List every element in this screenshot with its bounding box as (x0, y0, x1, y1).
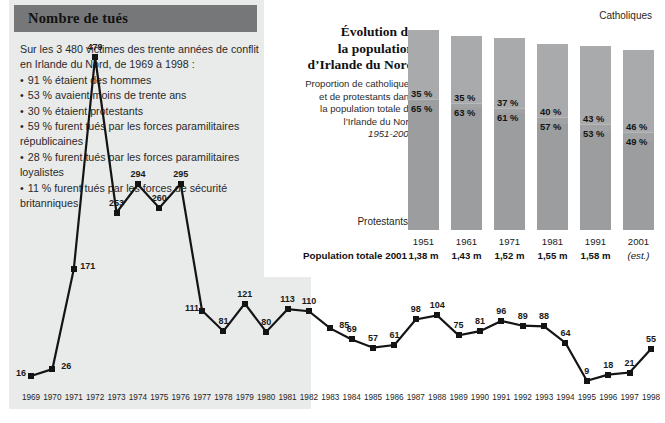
data-point-marker (477, 328, 483, 334)
deaths-bullet-4: 28 % furent tués par les forces paramili… (20, 150, 268, 181)
population-subtitle-line-1: Proportion de catholiques (268, 78, 414, 91)
population-bar-column: 35 %65 % (408, 30, 439, 230)
bar-segment-protestants (537, 124, 568, 230)
bar-label-protestants: 49 % (626, 136, 647, 147)
data-point-label: 89 (518, 311, 528, 321)
deaths-bullet-2: 30 % étaient protestants (20, 104, 268, 119)
data-point-marker (413, 316, 419, 322)
x-axis-tick-label: 1992 (514, 393, 532, 402)
x-axis-tick-label: 1984 (343, 393, 361, 402)
bar-label-protestants: 65 % (411, 103, 432, 114)
population-bar-column: 37 %61 % (494, 38, 525, 230)
population-title-line-1: Évolution de (268, 24, 414, 41)
bar-label-protestants: 63 % (454, 107, 475, 118)
stacked-bar: 43 %53 % (580, 46, 611, 230)
bar-label-catholiques: 35 % (454, 92, 475, 103)
data-point-label: 98 (411, 304, 421, 314)
data-point-label: 21 (625, 358, 635, 368)
data-point-marker (391, 342, 397, 348)
x-axis-tick-label: 1997 (621, 393, 639, 402)
data-point-marker (584, 378, 590, 384)
population-bar-column: 35 %63 % (451, 36, 482, 230)
data-point-marker (498, 318, 504, 324)
legend-catholiques: Catholiques (599, 10, 652, 21)
population-subtitle: Proportion de catholiques et de protesta… (268, 78, 414, 141)
bar-label-catholiques: 35 % (411, 88, 432, 99)
deaths-bullet-1: 53 % avaient moins de trente ans (20, 88, 268, 103)
data-point-marker (562, 340, 568, 346)
bar-label-catholiques: 37 % (497, 97, 518, 108)
bar-label-catholiques: 40 % (540, 106, 561, 117)
x-axis-tick-label: 1998 (642, 393, 660, 402)
data-point-marker (605, 372, 611, 378)
population-panel: Évolution de la population d’Irlande du … (264, 0, 660, 277)
x-axis-tick-label: 1995 (578, 393, 596, 402)
population-subtitle-years: 1951-2001 (268, 128, 414, 141)
data-point-label: 104 (430, 300, 445, 310)
data-point-marker (541, 323, 547, 329)
x-axis-tick-label: 1990 (471, 393, 489, 402)
population-subtitle-line-4: l’Irlande du Nord (268, 116, 414, 129)
stacked-bar: 40 %57 % (537, 44, 568, 230)
population-bar-column: 40 %57 % (537, 44, 568, 230)
data-point-marker (627, 370, 633, 376)
bar-x-label-year: 2001 (613, 236, 665, 247)
stacked-bar: 35 %65 % (408, 30, 439, 230)
data-point-marker (520, 323, 526, 329)
x-axis-tick-label: 1987 (407, 393, 425, 402)
data-point-marker (349, 336, 355, 342)
x-axis-tick-label: 1989 (449, 393, 467, 402)
bar-segment-protestants (623, 142, 654, 230)
deaths-intro-line-2: en Irlande du Nord, de 1969 à 1998 : (20, 57, 268, 72)
bar-segment-protestants (408, 100, 439, 230)
data-point-marker (327, 325, 333, 331)
population-subtitle-line-2: et de protestants dans (268, 91, 414, 104)
data-point-marker (648, 346, 654, 352)
data-point-label: 9 (584, 366, 589, 376)
deaths-bullet-0: 91 % étaient des hommes (20, 73, 268, 88)
data-point-marker (370, 345, 376, 351)
bar-label-catholiques: 43 % (583, 113, 604, 124)
population-total-row-label: Population totale 2001 (264, 250, 407, 261)
stacked-bar: 46 %49 % (623, 50, 654, 230)
population-subtitle-line-3: la population totale de (268, 103, 414, 116)
population-title-line-3: d’Irlande du Nord (268, 57, 414, 74)
data-point-label: 88 (539, 311, 549, 321)
x-axis-tick-label: 1993 (535, 393, 553, 402)
bar-segment-protestants (451, 108, 482, 230)
x-axis-tick-label: 1985 (364, 393, 382, 402)
bar-label-protestants: 57 % (540, 121, 561, 132)
stacked-bar: 35 %63 % (451, 36, 482, 230)
data-point-label: 57 (368, 333, 378, 343)
population-title-line-2: la population (268, 41, 414, 58)
x-axis-tick-label: 1991 (492, 393, 510, 402)
data-point-label: 75 (454, 320, 464, 330)
data-point-label: 96 (496, 306, 506, 316)
bar-segment-protestants (494, 113, 525, 230)
data-point-label: 81 (475, 316, 485, 326)
stacked-bar: 37 %61 % (494, 38, 525, 230)
population-title: Évolution de la population d’Irlande du … (268, 24, 414, 74)
data-point-label: 18 (603, 360, 613, 370)
population-bar-column: 43 %53 % (580, 46, 611, 230)
x-axis-tick-label: 1988 (428, 393, 446, 402)
data-point-label: 69 (347, 324, 357, 334)
deaths-intro-line-1: Sur les 3 480 victimes des trente années… (20, 42, 268, 57)
x-axis-tick-label: 1983 (321, 393, 339, 402)
data-point-label: 55 (646, 334, 656, 344)
bar-segment-protestants (580, 132, 611, 230)
deaths-summary-text: Sur les 3 480 victimes des trente années… (20, 42, 268, 211)
x-axis-tick-label: 1986 (385, 393, 403, 402)
x-axis-tick-label: 1994 (556, 393, 574, 402)
bar-label-protestants: 61 % (497, 112, 518, 123)
data-point-marker (434, 312, 440, 318)
data-point-marker (456, 332, 462, 338)
data-point-label: 64 (560, 328, 570, 338)
deaths-bullet-5: 11 % furent tués par les forces de sécur… (20, 181, 268, 212)
bar-label-protestants: 53 % (583, 128, 604, 139)
data-point-label: 85 (339, 320, 349, 330)
bar-x-label-population: (est.) (613, 250, 665, 261)
bar-label-catholiques: 46 % (626, 121, 647, 132)
page-title: Nombre de tués (28, 10, 128, 27)
x-axis-tick-label: 1996 (599, 393, 617, 402)
